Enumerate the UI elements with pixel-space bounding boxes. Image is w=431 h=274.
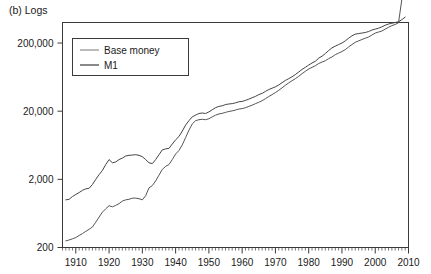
y-axis: 2002,00020,000200,000 bbox=[17, 38, 62, 253]
x-axis-tick-label: 1950 bbox=[198, 257, 221, 268]
y-axis-tick-label: 2,000 bbox=[28, 174, 53, 185]
x-axis-tick-label: 1920 bbox=[98, 257, 121, 268]
y-axis-tick-label: 200,000 bbox=[17, 38, 54, 49]
x-axis-tick-label: 1990 bbox=[331, 257, 354, 268]
y-axis-tick-label: 20,000 bbox=[23, 106, 54, 117]
x-axis-tick-label: 1970 bbox=[264, 257, 287, 268]
x-axis-tick-label: 1980 bbox=[298, 257, 321, 268]
legend-label-m1: M1 bbox=[104, 60, 118, 71]
x-axis-tick-label: 1940 bbox=[164, 257, 187, 268]
x-axis-tick-label: 1930 bbox=[131, 257, 154, 268]
x-axis-tick-label: 2010 bbox=[397, 257, 420, 268]
x-axis-tick-label: 2000 bbox=[364, 257, 387, 268]
x-axis: 1910192019301940195019601970198019902000… bbox=[63, 248, 421, 268]
chart-legend: Base money M1 bbox=[73, 39, 189, 76]
chart-canvas: 2002,00020,000200,000 191019201930194019… bbox=[0, 0, 431, 274]
x-axis-tick-label: 1910 bbox=[65, 257, 88, 268]
x-axis-tick-label: 1960 bbox=[231, 257, 254, 268]
legend-label-base-money: Base money bbox=[104, 45, 160, 56]
y-axis-tick-label: 200 bbox=[37, 242, 54, 253]
chart-figure: (b) Logs 2002,00020,000200,000 191019201… bbox=[0, 0, 431, 274]
